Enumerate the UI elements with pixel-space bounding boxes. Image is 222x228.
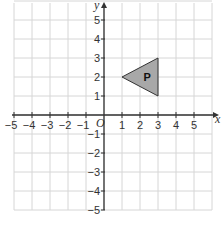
y-tick-label: 5 (94, 14, 100, 26)
y-tick-label: 3 (94, 52, 100, 64)
x-tick-label: 3 (155, 119, 161, 131)
x-tick-label: −5 (5, 119, 18, 131)
x-axis-label: x (214, 112, 221, 126)
y-tick-label: 2 (94, 71, 100, 83)
y-tick-label: −3 (87, 166, 100, 178)
x-tick-label: −4 (23, 119, 36, 131)
y-tick-label: −4 (87, 185, 100, 197)
y-tick-label: −2 (87, 147, 100, 159)
x-tick-label: −2 (59, 119, 72, 131)
x-tick-label: 2 (137, 119, 143, 131)
y-arrow-icon (101, 2, 107, 8)
triangle-p-label: P (144, 71, 151, 83)
y-tick-label: −5 (87, 204, 100, 216)
x-tick-label: 5 (191, 119, 197, 131)
x-tick-label: −3 (41, 119, 54, 131)
grid-lines (14, 1, 212, 210)
axes (12, 2, 219, 210)
x-tick-label: 4 (173, 119, 179, 131)
coordinate-grid: −5−4−3−2−11234554321−1−2−3−4−5 P x y O (0, 0, 222, 228)
y-axis-label: y (93, 0, 100, 12)
x-tick-label: 1 (119, 119, 125, 131)
y-tick-label: 1 (94, 90, 100, 102)
y-tick-label: 4 (94, 33, 100, 45)
origin-label: O (96, 116, 105, 130)
